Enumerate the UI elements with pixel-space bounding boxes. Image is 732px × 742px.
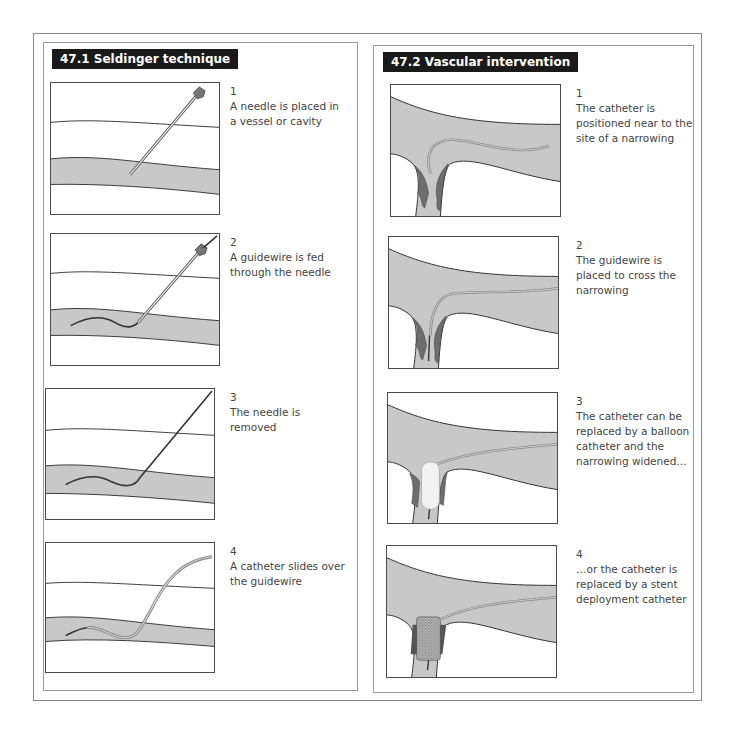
step-number: 1 <box>576 86 694 101</box>
guidewire-icon <box>428 660 429 670</box>
guidewire-icon <box>203 236 217 248</box>
step-caption: 1 A needle is placed in a vessel or cavi… <box>230 84 348 129</box>
figure-needle-placed <box>50 82 220 215</box>
step-caption: 4 …or the catheter is replaced by a sten… <box>576 547 694 607</box>
guidewire-icon <box>429 335 430 361</box>
step-number: 2 <box>576 238 694 253</box>
step-text: A needle is placed in a vessel or cavity <box>230 100 339 127</box>
stent-icon <box>417 617 441 660</box>
step-caption: 1 The catheter is positioned near to the… <box>576 86 694 146</box>
figure-catheter-slides <box>45 542 215 673</box>
plaque-icon <box>410 474 420 507</box>
step-number: 3 <box>576 394 694 409</box>
figure-balloon-catheter <box>387 392 558 524</box>
needle-icon <box>130 87 205 175</box>
figure-guidewire-fed <box>50 233 220 366</box>
guidewire-icon <box>429 509 430 519</box>
step-number: 1 <box>230 84 348 99</box>
step-number: 4 <box>576 547 694 562</box>
step-caption: 2 A guidewire is fed through the needle <box>230 235 348 280</box>
panel-title-vascular: 47.2 Vascular intervention <box>383 52 578 72</box>
figure-guidewire-crosses <box>388 236 559 369</box>
step-text: The needle is removed <box>230 406 300 433</box>
step-number: 4 <box>230 544 348 559</box>
balloon-icon <box>422 462 440 509</box>
step-text: A guidewire is fed through the needle <box>230 251 331 278</box>
panel-title-seldinger: 47.1 Seldinger technique <box>52 49 238 69</box>
needle-icon <box>138 244 207 323</box>
step-caption: 3 The needle is removed <box>230 390 348 435</box>
step-text: The guidewire is placed to cross the nar… <box>576 254 676 296</box>
step-number: 3 <box>230 390 348 405</box>
figure-needle-removed <box>45 388 215 520</box>
step-number: 2 <box>230 235 348 250</box>
step-text: The catheter can be replaced by a balloo… <box>576 410 689 467</box>
step-text: …or the catheter is replaced by a stent … <box>576 563 686 605</box>
step-caption: 3 The catheter can be replaced by a ball… <box>576 394 694 469</box>
figure-catheter-positioned <box>390 84 561 217</box>
step-caption: 4 A catheter slides over the guidewire <box>230 544 348 589</box>
figure-stent-deployment <box>386 545 557 678</box>
step-caption: 2 The guidewire is placed to cross the n… <box>576 238 694 298</box>
step-text: The catheter is positioned near to the s… <box>576 102 692 144</box>
step-text: A catheter slides over the guidewire <box>230 560 345 587</box>
